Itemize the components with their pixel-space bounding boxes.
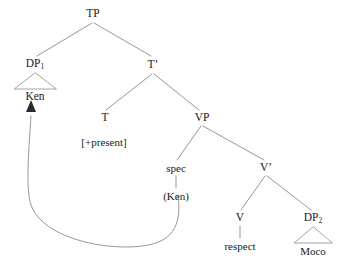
node-t: T <box>101 112 108 124</box>
branch-vp-spec <box>177 126 201 160</box>
node-vbar-label: V’ <box>260 161 272 173</box>
node-tp: TP <box>86 8 99 20</box>
branch-tp-tbar <box>94 23 151 56</box>
node-v: V <box>236 212 244 224</box>
node-vp: VP <box>195 112 210 124</box>
node-dp2: DP2 <box>304 212 322 224</box>
branch-tbar-vp <box>154 74 199 110</box>
node-t-label: T <box>101 111 108 123</box>
node-dp1-subscript: 1 <box>40 62 44 71</box>
terminal-ken-moved: Ken <box>25 91 44 103</box>
node-dp2-subscript: 2 <box>318 216 322 225</box>
dp2-triangle <box>294 227 332 243</box>
terminal-ken-moved-label: Ken <box>25 90 44 102</box>
node-tp-label: TP <box>86 7 99 19</box>
node-vp-label: VP <box>195 111 210 123</box>
node-v-label: V <box>236 211 244 223</box>
node-spec: spec <box>166 163 186 174</box>
branch-tp-dp1 <box>37 23 92 56</box>
terminal-moco-label: Moco <box>300 245 326 257</box>
node-dp1: DP1 <box>26 58 44 70</box>
terminal-tense-feature-label: [+present] <box>81 136 126 148</box>
branch-vbar-v <box>241 176 265 210</box>
node-tbar-label: T’ <box>148 58 159 70</box>
terminal-respect-label: respect <box>224 240 255 252</box>
node-tbar: T’ <box>148 59 159 71</box>
node-vbar: V’ <box>260 162 272 174</box>
dp1-triangle <box>14 73 56 89</box>
terminal-ken-trace: (Ken) <box>163 191 189 202</box>
tree-branches-svg <box>0 0 346 266</box>
terminal-tense-feature: [+present] <box>81 137 126 148</box>
terminal-moco: Moco <box>300 246 326 257</box>
terminal-respect: respect <box>224 241 255 252</box>
node-dp1-label: DP <box>26 57 41 69</box>
terminal-ken-trace-label: (Ken) <box>163 190 189 202</box>
branch-vbar-dp2 <box>267 176 311 210</box>
syntax-tree-figure: TP DP1 Ken T’ T [+present] VP spec (Ken)… <box>0 0 346 266</box>
branch-tbar-t <box>106 74 152 110</box>
branch-vp-vbar <box>203 126 264 160</box>
node-dp2-label: DP <box>304 211 319 223</box>
node-spec-label: spec <box>166 162 186 174</box>
